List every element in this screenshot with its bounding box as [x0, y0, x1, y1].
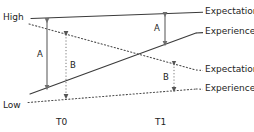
- x-tick-label-t0: T0: [56, 118, 67, 127]
- diagram-canvas: High Low T0 T1 Expectations Experience E…: [0, 0, 254, 132]
- measure-label-b-t1: B: [163, 73, 169, 82]
- series-label-experience-solid: Experience: [205, 27, 254, 36]
- label-leader-lines: [196, 12, 203, 89]
- measure-label-a-t1: A: [154, 24, 160, 33]
- series-label-expectations-dotted: Expectations: [205, 65, 254, 74]
- x-tick-label-t1: T1: [155, 118, 166, 127]
- y-axis-label-high: High: [3, 13, 24, 22]
- measure-label-b-t0: B: [70, 61, 76, 70]
- measure-label-a-t0: A: [37, 50, 43, 59]
- line-expectations-solid: [31, 13, 196, 19]
- series-label-expectations-solid: Expectations: [205, 7, 254, 16]
- y-axis-label-low: Low: [3, 101, 21, 110]
- series-label-experience-dotted: Experience: [205, 84, 254, 93]
- line-experience-dotted: [28, 89, 196, 103]
